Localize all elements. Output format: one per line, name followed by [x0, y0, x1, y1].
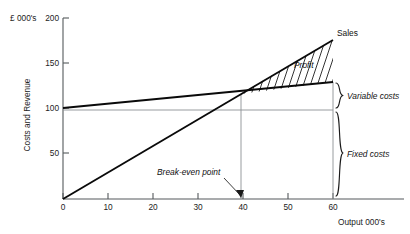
y-axis-title: Costs and Revenue: [22, 78, 32, 151]
sales-label: Sales: [337, 28, 358, 38]
x-tick-label-0: 0: [61, 202, 66, 212]
guide-lines: [63, 82, 333, 199]
variable-costs-brace: Variable costs: [336, 83, 400, 108]
fixed-costs-brace: Fixed costs: [336, 112, 390, 196]
fixed-costs-label: Fixed costs: [347, 149, 390, 159]
y-tick-label-100: 100: [45, 103, 59, 113]
x-tick-label-40: 40: [238, 202, 248, 212]
x-tick-label-10: 10: [103, 202, 113, 212]
break-even-label: Break-even point: [157, 167, 221, 177]
x-tick-label-20: 20: [148, 202, 158, 212]
x-tick-label-50: 50: [283, 202, 293, 212]
y-axis-ticks: [63, 18, 69, 153]
variable-costs-label: Variable costs: [347, 91, 400, 101]
x-tick-label-60: 60: [328, 202, 338, 212]
break-even-callout: Break-even point: [157, 167, 244, 198]
profit-label: Profit: [294, 60, 314, 70]
axes: [63, 18, 404, 199]
y-axis-unit-label: £ 000's: [10, 13, 37, 23]
break-even-chart: 200 150 100 50 £ 000's Costs and Revenue…: [0, 0, 410, 234]
y-tick-label-150: 150: [45, 58, 59, 68]
y-tick-label-200: 200: [45, 13, 59, 23]
x-axis-title: Output 000's: [338, 217, 385, 227]
x-axis-ticks: [63, 193, 333, 199]
y-tick-label-50: 50: [50, 148, 60, 158]
total-cost-line: [63, 82, 333, 108]
x-tick-label-30: 30: [193, 202, 203, 212]
